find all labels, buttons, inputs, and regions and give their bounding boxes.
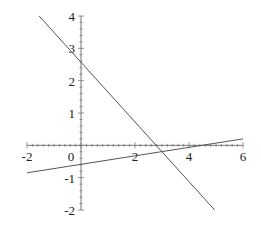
x-tick-label: 0 xyxy=(68,149,75,164)
x-tick-label: -2 xyxy=(22,149,33,164)
plot-area: -202464321-1-2 xyxy=(0,0,261,227)
x-tick-label: 6 xyxy=(240,149,247,164)
y-tick-label: -2 xyxy=(64,203,75,218)
y-tick-label: 4 xyxy=(69,9,76,24)
x-tick-label: 4 xyxy=(186,149,193,164)
y-tick-label: 2 xyxy=(69,74,76,89)
y-tick-label: 1 xyxy=(69,106,76,121)
x-tick-label: 2 xyxy=(132,149,139,164)
y-tick-label: -1 xyxy=(64,171,75,186)
chart: -202464321-1-2 xyxy=(0,0,261,227)
